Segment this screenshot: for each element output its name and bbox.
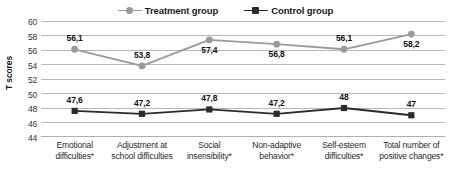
data-label-treatment-1: 53,8 — [127, 50, 157, 60]
y-tick-46: 46 — [17, 119, 37, 129]
data-label-control-5: 47 — [396, 99, 426, 109]
control-series-marker-icon — [244, 5, 268, 15]
y-tick-60: 60 — [17, 17, 37, 27]
chart-legend: Treatment group Control group — [0, 2, 451, 18]
x-category-4: Self-esteem difficulties* — [310, 140, 377, 186]
x-category-5: Total number of positive changes* — [378, 140, 445, 186]
chart-container: Treatment group Control group T scores 6… — [0, 0, 451, 186]
y-axis-title: T scores — [4, 43, 14, 103]
legend-item-control: Control group — [244, 5, 333, 16]
y-tick-58: 58 — [17, 32, 37, 42]
data-label-control-3: 47,2 — [262, 98, 292, 108]
plot-svg — [41, 21, 445, 137]
data-label-control-0: 47,6 — [60, 95, 90, 105]
x-category-2: Social insensibility* — [176, 140, 243, 186]
legend-label-treatment: Treatment group — [145, 5, 218, 16]
x-category-0: Emotional difficulties* — [41, 140, 108, 186]
data-label-treatment-3: 56,8 — [262, 49, 292, 59]
y-tick-44: 44 — [17, 133, 37, 143]
y-tick-52: 52 — [17, 75, 37, 85]
data-label-control-1: 47,2 — [127, 98, 157, 108]
y-tick-50: 50 — [17, 90, 37, 100]
data-label-control-2: 47,8 — [194, 93, 224, 103]
y-tick-48: 48 — [17, 104, 37, 114]
plot-area — [41, 21, 445, 137]
legend-item-treatment: Treatment group — [118, 5, 218, 16]
y-tick-56: 56 — [17, 46, 37, 56]
x-category-1: Adjustment at school difficulties — [108, 140, 175, 186]
data-label-treatment-5: 58,2 — [396, 39, 426, 49]
data-label-treatment-0: 56,1 — [60, 33, 90, 43]
x-axis-labels: Emotional difficulties* Adjustment at sc… — [41, 140, 445, 186]
y-tick-54: 54 — [17, 61, 37, 71]
data-label-treatment-4: 56,1 — [329, 33, 359, 43]
legend-label-control: Control group — [271, 5, 333, 16]
data-label-treatment-2: 57,4 — [194, 45, 224, 55]
data-label-control-4: 48 — [329, 92, 359, 102]
x-category-3: Non-adaptive behavior* — [243, 140, 310, 186]
treatment-series-marker-icon — [118, 5, 142, 15]
